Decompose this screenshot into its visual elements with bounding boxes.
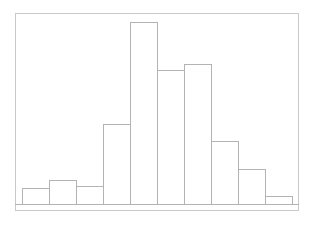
histogram-figure	[0, 0, 316, 226]
plot-frame-border	[15, 13, 299, 211]
